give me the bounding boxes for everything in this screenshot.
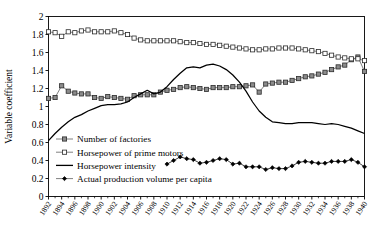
y-axis-title-text: Variable coefficient xyxy=(4,69,14,144)
marker-filled-diamond xyxy=(303,159,307,163)
x-tick-label: 1928 xyxy=(274,199,290,217)
marker-open-square xyxy=(323,51,327,55)
marker-filled-diamond xyxy=(277,167,281,171)
legend-item-label: Horsepower of prime motors xyxy=(77,148,184,158)
marker-open-square xyxy=(112,29,116,33)
marker-open-square xyxy=(86,28,90,32)
marker-open-square xyxy=(237,46,241,50)
marker-filled-diamond xyxy=(191,158,195,162)
marker-filled-square xyxy=(270,81,274,85)
x-tick-label: 1936 xyxy=(327,199,343,217)
y-tick-label: 1.2 xyxy=(32,84,44,94)
marker-filled-diamond xyxy=(257,165,261,169)
marker-filled-square xyxy=(171,87,175,91)
marker-filled-square xyxy=(204,87,208,91)
marker-open-square xyxy=(132,36,136,40)
marker-filled-square xyxy=(191,86,195,90)
marker-filled-diamond xyxy=(264,167,268,171)
marker-filled-square xyxy=(99,96,103,100)
y-tick-label: 1.8 xyxy=(32,30,44,40)
y-tick-label: 0.6 xyxy=(32,138,44,148)
marker-filled-square xyxy=(224,86,228,90)
x-tick-label: 1934 xyxy=(314,199,330,217)
variable-coefficient-chart: 00.20.40.60.811.21.41.61.82 189218941896… xyxy=(0,0,382,240)
marker-open-square xyxy=(257,48,261,52)
marker-open-square xyxy=(290,46,294,50)
marker-open-square xyxy=(316,50,320,54)
x-tick-label: 1914 xyxy=(182,199,198,217)
x-tick-label: 1940 xyxy=(353,199,369,217)
y-tick-label: 0.2 xyxy=(32,174,44,184)
marker-filled-diamond xyxy=(250,165,254,169)
marker-filled-square xyxy=(73,91,77,95)
chart-container: 00.20.40.60.811.21.41.61.82 189218941896… xyxy=(0,0,382,240)
marker-open-square xyxy=(303,48,307,52)
marker-filled-diamond xyxy=(244,165,248,169)
marker-filled-square xyxy=(112,95,116,99)
marker-open-square xyxy=(139,38,143,42)
y-tick-label: 2 xyxy=(39,12,44,22)
marker-filled-square xyxy=(323,70,327,74)
marker-open-square xyxy=(211,42,215,46)
marker-filled-square xyxy=(79,92,83,96)
marker-filled-square xyxy=(62,137,66,141)
marker-filled-square xyxy=(297,77,301,81)
x-tick-label: 1902 xyxy=(103,199,119,217)
marker-filled-square xyxy=(145,93,149,97)
marker-open-square xyxy=(191,41,195,45)
marker-filled-square xyxy=(336,65,340,69)
x-tick-label: 1938 xyxy=(340,199,356,217)
marker-filled-square xyxy=(257,90,261,94)
y-tick-label: 0.8 xyxy=(32,120,44,130)
legend-item-3: Actual production volume per capita xyxy=(56,174,212,184)
marker-filled-diamond xyxy=(204,160,208,164)
marker-open-square xyxy=(185,41,189,45)
marker-filled-diamond xyxy=(356,160,360,164)
marker-filled-square xyxy=(310,74,314,78)
x-tick-label: 1904 xyxy=(116,199,132,217)
marker-open-square xyxy=(106,30,110,34)
marker-open-square xyxy=(60,34,64,38)
marker-open-square xyxy=(152,39,156,43)
marker-filled-square xyxy=(290,78,294,82)
marker-open-square xyxy=(198,41,202,45)
marker-filled-square xyxy=(53,95,57,99)
marker-filled-diamond xyxy=(316,161,320,165)
y-axis-title: Variable coefficient xyxy=(4,69,14,144)
marker-open-square xyxy=(165,39,169,43)
marker-filled-diamond xyxy=(62,177,66,181)
marker-open-square xyxy=(125,32,129,36)
marker-open-square xyxy=(264,47,268,51)
marker-open-square xyxy=(349,57,353,61)
marker-filled-square xyxy=(244,84,248,88)
marker-open-square xyxy=(145,39,149,43)
marker-filled-diamond xyxy=(218,157,222,161)
marker-filled-diamond xyxy=(310,160,314,164)
marker-filled-diamond xyxy=(270,166,274,170)
marker-open-square xyxy=(297,47,301,51)
x-axis-ticks: 1892189418961898190019021904190619081910… xyxy=(37,197,369,218)
marker-open-square xyxy=(283,46,287,50)
marker-filled-diamond xyxy=(165,162,169,166)
legend-item-2: Horsepower intensity xyxy=(56,161,156,171)
marker-filled-square xyxy=(362,69,366,73)
marker-open-square xyxy=(92,30,96,34)
marker-open-square xyxy=(53,31,57,35)
x-tick-label: 1932 xyxy=(301,199,317,217)
marker-filled-diamond xyxy=(343,159,347,163)
x-tick-label: 1898 xyxy=(77,199,93,217)
x-tick-label: 1910 xyxy=(156,199,172,217)
marker-filled-diamond xyxy=(336,159,340,163)
x-tick-label: 1908 xyxy=(143,199,159,217)
x-tick-label: 1906 xyxy=(130,199,146,217)
marker-filled-diamond xyxy=(349,158,353,162)
marker-filled-square xyxy=(185,85,189,89)
marker-filled-square xyxy=(198,86,202,90)
marker-open-square xyxy=(99,30,103,34)
series-actual-production-volume-per-capita xyxy=(165,155,367,172)
x-tick-label: 1912 xyxy=(169,199,185,217)
y-axis-ticks: 00.20.40.60.811.21.41.61.82 xyxy=(32,12,49,202)
marker-filled-square xyxy=(316,72,320,76)
marker-filled-diamond xyxy=(224,158,228,162)
marker-filled-diamond xyxy=(171,158,175,162)
